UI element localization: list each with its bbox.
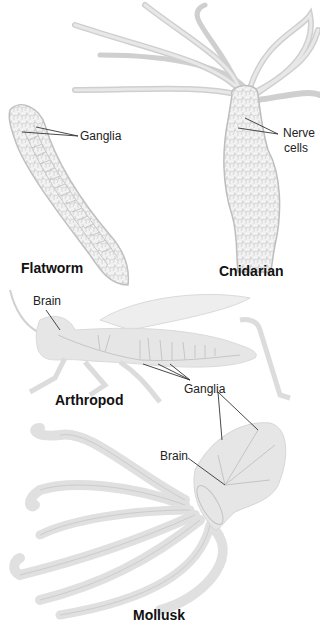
- arthropod-title: Arthropod: [55, 393, 123, 407]
- mollusk-title: Mollusk: [133, 608, 185, 622]
- mollusk-tentacles: [14, 428, 223, 615]
- mollusk-mantle: [194, 423, 286, 530]
- cnidarian-body: [224, 86, 280, 272]
- flatworm-ganglia-label: Ganglia: [80, 130, 121, 142]
- flatworm-title: Flatworm: [21, 261, 83, 275]
- cnidarian-nerve-label-line1: Nerve: [283, 127, 315, 139]
- cnidarian-title: Cnidarian: [219, 264, 284, 278]
- arthropod-ganglia-label: Ganglia: [184, 383, 225, 395]
- cnidarian-tentacles: [75, 5, 320, 100]
- nervous-systems-illustration: [0, 0, 320, 626]
- cnidarian-nerve-label-line2: cells: [284, 142, 308, 154]
- arthropod-brain-label: Brain: [33, 295, 61, 307]
- mollusk-brain-label: Brain: [160, 450, 188, 462]
